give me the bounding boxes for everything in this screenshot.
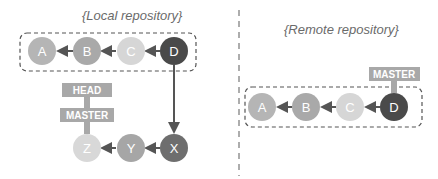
remote-master-label-text: MASTER: [373, 69, 416, 80]
svg-text:A: A: [38, 44, 47, 59]
svg-text:Y: Y: [127, 141, 136, 156]
head-label-text: HEAD: [73, 85, 101, 96]
local-master-label-text: MASTER: [66, 110, 109, 121]
svg-text:C: C: [126, 44, 135, 59]
remote-commit-c: C: [336, 93, 364, 121]
remote-master-connector: [391, 81, 397, 93]
git-diagram: HEAD MASTER A B C D X Y Z MASTER A B C D: [0, 0, 438, 179]
master-connector: [84, 122, 90, 134]
local-commit-c: C: [117, 37, 145, 65]
svg-text:D: D: [389, 100, 398, 115]
remote-commit-a: A: [248, 93, 276, 121]
remote-commit-d: D: [380, 93, 408, 121]
svg-text:D: D: [169, 44, 178, 59]
local-commit-x: X: [160, 134, 188, 162]
svg-text:Z: Z: [83, 141, 91, 156]
remote-commit-b: B: [292, 93, 320, 121]
local-commit-y: Y: [117, 134, 145, 162]
svg-text:C: C: [345, 100, 354, 115]
svg-text:X: X: [170, 141, 179, 156]
svg-text:A: A: [258, 100, 267, 115]
svg-text:B: B: [83, 44, 92, 59]
local-commit-b: B: [73, 37, 101, 65]
svg-text:B: B: [302, 100, 311, 115]
local-commit-z: Z: [73, 134, 101, 162]
head-connector: [84, 97, 90, 108]
local-commit-d: D: [160, 37, 188, 65]
local-commit-a: A: [28, 37, 56, 65]
